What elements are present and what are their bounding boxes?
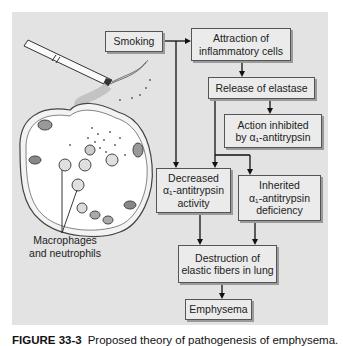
node-inherited-line-1: Inherited	[249, 179, 310, 192]
node-smoking: Smoking	[105, 31, 163, 52]
figure-caption: FIGURE 33-3Proposed theory of pathogenes…	[12, 334, 338, 346]
node-destruction-line-1: Destruction of	[181, 252, 273, 265]
node-emphysema: Emphysema	[185, 299, 252, 320]
node-action-line-1: Action inhibited	[236, 119, 311, 132]
node-release-label: Release of elastase	[215, 82, 307, 95]
node-destruction-line-2: elastic fibers in lung	[181, 264, 273, 277]
node-action: Action inhibited by α₁-antitrypsin	[224, 114, 322, 148]
node-decreased-line-1: Decreased	[163, 172, 224, 185]
node-inherited-line-3: deficiency	[249, 204, 310, 217]
node-inherited-line-2: α₁-antitrypsin	[249, 192, 310, 205]
node-emphysema-label: Emphysema	[189, 303, 247, 316]
node-destruction: Destruction of elastic fibers in lung	[178, 245, 277, 283]
node-inherited: Inherited α₁-antitrypsin deficiency	[238, 175, 321, 221]
cigarette-icon	[24, 40, 112, 86]
figure-number: FIGURE 33-3	[12, 334, 82, 346]
node-decreased-line-3: activity	[163, 197, 224, 210]
node-attraction: Attraction of inflammatory cells	[191, 28, 291, 61]
node-attraction-line-2: inflammatory cells	[199, 45, 283, 58]
figure-caption-text: Proposed theory of pathogenesis of emphy…	[88, 334, 339, 346]
node-decreased: Decreased α₁-antitrypsin activity	[156, 168, 231, 213]
illustration-label: Macrophages and neutrophils	[18, 234, 112, 259]
illustration-label-line-1: Macrophages	[18, 234, 112, 247]
node-smoking-label: Smoking	[114, 35, 155, 48]
node-attraction-line-1: Attraction of	[199, 32, 283, 45]
node-release: Release of elastase	[208, 77, 315, 99]
node-decreased-line-2: α₁-antitrypsin	[163, 184, 224, 197]
illustration-label-line-2: and neutrophils	[18, 247, 112, 260]
node-action-line-2: by α₁-antitrypsin	[236, 131, 311, 144]
